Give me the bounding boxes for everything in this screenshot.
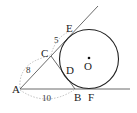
label-c: C [41,47,48,59]
label-b: B [74,91,81,103]
label-d: D [66,64,74,76]
center-dot [88,57,91,60]
measure-ce: 5 [54,35,59,45]
label-f: F [88,91,94,103]
label-a: A [12,83,20,95]
geometry-diagram: A B C D E F O 8 5 10 [0,0,137,113]
arc-ac [20,56,50,88]
ray-ae [20,6,98,89]
measure-ab: 10 [42,93,52,103]
measure-ac: 8 [26,65,31,75]
label-e: E [66,22,73,34]
label-o: O [84,60,92,72]
